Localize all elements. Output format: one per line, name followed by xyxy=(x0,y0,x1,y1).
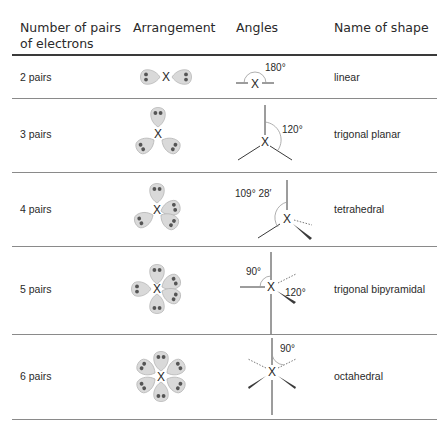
svg-text:X: X xyxy=(283,212,291,226)
header-pairs-line2: of electrons xyxy=(20,36,121,52)
header-pairs-line1: Number of pairs xyxy=(20,20,121,36)
angle-label-109-28: 109° 28′ xyxy=(235,188,272,199)
arrangement-6-pairs: X xyxy=(130,340,210,415)
shape-tetrahedral: tetrahedral xyxy=(334,203,384,215)
header-shape: Name of shape xyxy=(334,20,429,36)
header-pairs: Number of pairs of electrons xyxy=(20,20,121,52)
svg-text:X: X xyxy=(268,365,276,379)
arrangement-4-pairs: X xyxy=(130,175,200,245)
shape-linear: linear xyxy=(334,71,360,83)
header-arrangement: Arrangement xyxy=(133,20,216,36)
angle-diagram-3-pairs: X 120° xyxy=(220,100,310,170)
angle-diagram-6-pairs: X 90° xyxy=(240,335,320,420)
angle-diagram-2-pairs: X 180° xyxy=(230,60,300,95)
row-divider xyxy=(12,419,437,420)
arrangement-3-pairs: X xyxy=(130,100,190,172)
row-divider xyxy=(12,172,437,173)
row-2-pairs-label: 2 pairs xyxy=(20,71,52,83)
header-divider xyxy=(12,54,437,56)
arrangement-2-pairs: X xyxy=(135,62,195,92)
svg-text:X: X xyxy=(157,370,165,384)
svg-text:X: X xyxy=(153,203,161,217)
svg-text:X: X xyxy=(261,135,269,149)
row-6-pairs-label: 6 pairs xyxy=(20,370,52,382)
angle-diagram-4-pairs: X 109° 28′ xyxy=(230,175,330,245)
svg-text:X: X xyxy=(154,127,162,141)
shape-octahedral: octahedral xyxy=(334,370,383,382)
angle-label-180: 180° xyxy=(265,62,286,73)
row-divider xyxy=(12,246,437,247)
svg-text:X: X xyxy=(267,280,275,294)
shape-trigonal-planar: trigonal planar xyxy=(334,128,401,140)
row-5-pairs-label: 5 pairs xyxy=(20,283,52,295)
angle-label-120: 120° xyxy=(282,124,303,135)
row-divider xyxy=(12,334,437,335)
row-divider xyxy=(12,98,437,99)
angle-diagram-5-pairs: X 90° 120° xyxy=(230,250,330,340)
shape-trigonal-bipyramidal: trigonal bipyramidal xyxy=(334,283,425,295)
svg-text:X: X xyxy=(251,77,259,91)
central-atom-label: X xyxy=(162,70,170,84)
angle-label-120: 120° xyxy=(285,287,306,298)
svg-text:X: X xyxy=(153,282,161,296)
header-angles: Angles xyxy=(236,20,278,36)
angle-label-90: 90° xyxy=(280,343,295,354)
angle-label-90: 90° xyxy=(246,266,261,277)
row-3-pairs-label: 3 pairs xyxy=(20,128,52,140)
arrangement-5-pairs: X xyxy=(130,255,200,335)
row-4-pairs-label: 4 pairs xyxy=(20,203,52,215)
